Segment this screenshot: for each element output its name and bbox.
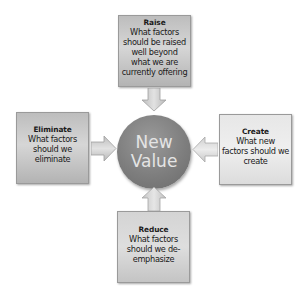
reduce-box: Reduce What factors should we de- emphas… — [117, 211, 190, 283]
eliminate-desc-line: should we — [17, 144, 88, 154]
arrow-left-icon — [192, 137, 218, 162]
reduce-desc-line: What factors — [118, 234, 189, 244]
create-desc-line: create — [220, 156, 291, 166]
new-value-circle: New Value — [117, 115, 191, 189]
create-box: Create What new factors should we create — [219, 114, 292, 185]
eliminate-box: Eliminate What factors should we elimina… — [16, 112, 89, 184]
arrow-right-icon — [91, 136, 117, 161]
eliminate-desc-line: eliminate — [17, 154, 88, 164]
center-label-line1: New — [117, 133, 191, 152]
reduce-title: Reduce — [118, 225, 189, 234]
arrow-up-icon — [141, 187, 167, 211]
arrow-down-icon — [141, 88, 167, 112]
raise-desc-line: what we are — [119, 57, 190, 67]
raise-desc-line: What factors — [119, 27, 190, 37]
raise-desc-line: well beyond — [119, 47, 190, 57]
eliminate-title: Eliminate — [17, 125, 88, 134]
reduce-desc-line: emphasize — [118, 254, 189, 264]
create-desc-line: factors should we — [220, 146, 291, 156]
eliminate-desc-line: What factors — [17, 134, 88, 144]
raise-box: Raise What factors should be raised well… — [118, 15, 191, 87]
center-label-line2: Value — [117, 152, 191, 171]
raise-desc-line: should be raised — [119, 37, 190, 47]
raise-desc-line: currently offering — [119, 67, 190, 77]
reduce-desc-line: should we de- — [118, 244, 189, 254]
create-title: Create — [220, 127, 291, 136]
create-desc-line: What new — [220, 136, 291, 146]
raise-title: Raise — [119, 18, 190, 27]
